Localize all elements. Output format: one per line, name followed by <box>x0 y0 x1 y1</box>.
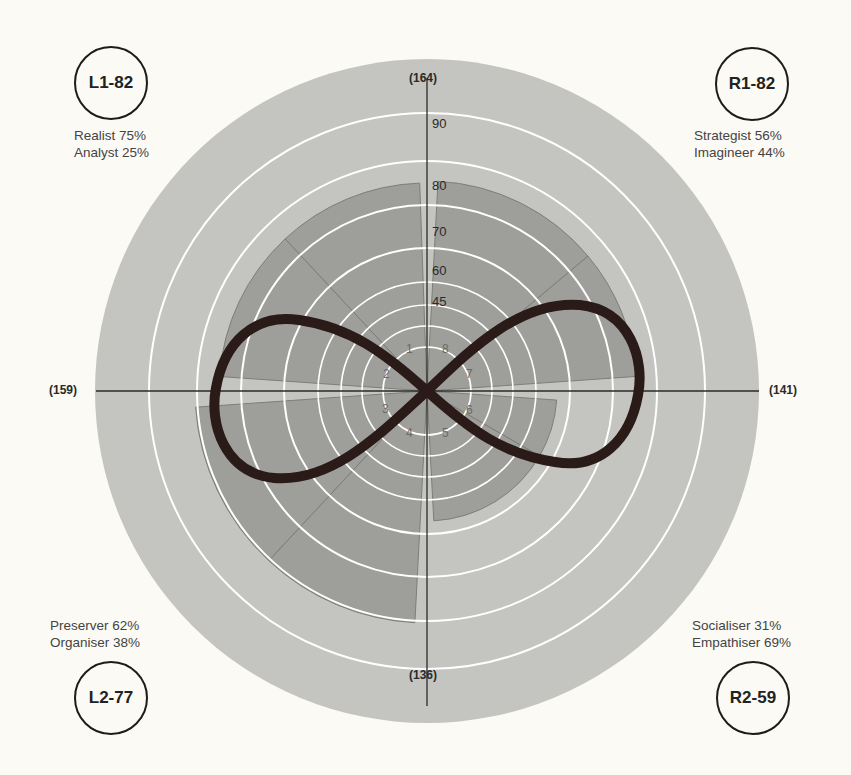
description-l1: Realist 75% Analyst 25% <box>74 127 149 161</box>
axis-label-right: (141) <box>769 383 797 397</box>
polar-chart: 90 80 70 60 45 1 2 3 4 5 6 7 8 <box>0 0 851 775</box>
axis-label-top: (164) <box>409 71 437 85</box>
badge-r1: R1-82 <box>715 47 789 121</box>
tick-70: 70 <box>432 224 446 239</box>
segment-label-3: 3 <box>382 402 389 416</box>
tick-45: 45 <box>432 294 446 309</box>
description-r2-line2: Empathiser 69% <box>692 634 791 651</box>
segment-label-8: 8 <box>442 342 449 356</box>
tick-90: 90 <box>432 116 446 131</box>
description-l2-line2: Organiser 38% <box>50 634 140 651</box>
segment-label-1: 1 <box>406 342 413 356</box>
segment-label-7: 7 <box>466 367 473 381</box>
description-r1-line1: Strategist 56% <box>694 127 785 144</box>
tick-80: 80 <box>432 178 446 193</box>
description-r1: Strategist 56% Imagineer 44% <box>694 127 785 161</box>
description-r1-line2: Imagineer 44% <box>694 144 785 161</box>
segment-label-5: 5 <box>442 426 449 440</box>
badge-l1: L1-82 <box>74 46 148 120</box>
segment-label-2: 2 <box>383 367 390 381</box>
badge-r2: R2-59 <box>716 661 790 735</box>
segment-label-6: 6 <box>466 403 473 417</box>
description-l2-line1: Preserver 62% <box>50 617 140 634</box>
badge-l2: L2-77 <box>74 661 148 735</box>
description-r2: Socialiser 31% Empathiser 69% <box>692 617 791 651</box>
description-r2-line1: Socialiser 31% <box>692 617 791 634</box>
axis-label-left: (159) <box>49 383 77 397</box>
description-l1-line2: Analyst 25% <box>74 144 149 161</box>
segment-label-4: 4 <box>406 426 413 440</box>
axis-label-bottom: (136) <box>409 668 437 682</box>
tick-60: 60 <box>432 263 446 278</box>
description-l2: Preserver 62% Organiser 38% <box>50 617 140 651</box>
description-l1-line1: Realist 75% <box>74 127 149 144</box>
